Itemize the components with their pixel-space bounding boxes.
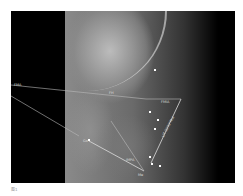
fh-label: FH	[109, 91, 114, 95]
me-label: Me	[138, 173, 143, 177]
go-label: Go	[83, 139, 88, 143]
fma-label-left: FMA	[14, 83, 21, 87]
impa-label: IMPA	[126, 158, 134, 162]
fmia-label: FMIA	[161, 100, 169, 104]
tracing-lines	[11, 11, 235, 183]
figure-caption: 图1	[11, 186, 18, 192]
cephalometric-figure: FMA FMIA IMPA LIT 0270°Mol Go Me FH	[11, 11, 235, 183]
